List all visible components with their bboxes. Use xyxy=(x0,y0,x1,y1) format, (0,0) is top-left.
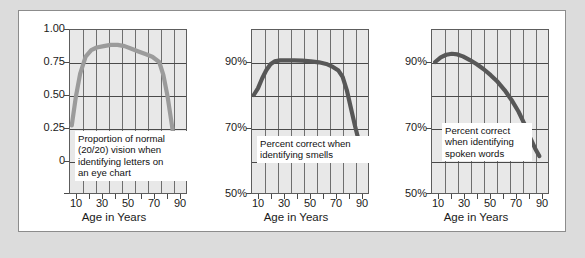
chart-panel-smell: 90% 70% 50% xyxy=(205,11,387,231)
x-tick-label: 30 xyxy=(453,197,475,209)
y-tick-label: 0.25 xyxy=(44,122,65,133)
y-tick-label: 90% xyxy=(405,56,427,67)
x-tick-label: 90 xyxy=(351,197,373,209)
y-tick-label: 1.00 xyxy=(44,23,65,34)
y-tick-label: 70% xyxy=(405,122,427,133)
chart-panel-vision: 1.00 0.75 0.50 0.25 0 xyxy=(23,11,205,231)
x-tick-label: 70 xyxy=(325,197,347,209)
y-axis-labels-3: 90% 70% 50% xyxy=(385,29,427,194)
x-tick-label: 90 xyxy=(169,197,191,209)
x-tick-label: 30 xyxy=(273,197,295,209)
x-axis-title: Age in Years xyxy=(23,211,205,223)
x-tick-label: 50 xyxy=(299,197,321,209)
x-tick-label: 30 xyxy=(91,197,113,209)
chart-caption-vision: Proportion of normal (20/20) vision when… xyxy=(75,131,195,181)
x-tick-label: 70 xyxy=(143,197,165,209)
y-axis-labels-2: 90% 70% 50% xyxy=(205,29,247,194)
y-tick-label: 70% xyxy=(225,122,247,133)
x-tick-label: 90 xyxy=(531,197,553,209)
x-tick-label: 10 xyxy=(427,197,449,209)
y-axis-labels-1: 1.00 0.75 0.50 0.25 0 xyxy=(23,29,65,194)
x-tick-label: 70 xyxy=(505,197,527,209)
chart-caption-smell: Percent correct when identifying smells xyxy=(257,136,377,163)
y-tick-label: 90% xyxy=(225,56,247,67)
x-tick-label: 50 xyxy=(117,197,139,209)
x-tick-label: 50 xyxy=(479,197,501,209)
plot-area-speech xyxy=(431,29,549,194)
x-axis-title: Age in Years xyxy=(205,211,387,223)
x-tick-label: 10 xyxy=(247,197,269,209)
x-axis-title: Age in Years xyxy=(385,211,567,223)
chart-panel-speech: 90% 70% 50% xyxy=(385,11,567,231)
figure-frame: 1.00 0.75 0.50 0.25 0 xyxy=(18,10,566,232)
plot-area-smell xyxy=(251,29,369,194)
chart-caption-speech: Percent correct when identifying spoken … xyxy=(442,123,532,161)
x-tick-label: 10 xyxy=(65,197,87,209)
y-tick-label: 0.50 xyxy=(44,89,65,100)
y-tick-label: 0.75 xyxy=(44,56,65,67)
data-curve-smell xyxy=(251,29,369,194)
data-curve-speech xyxy=(431,29,549,194)
